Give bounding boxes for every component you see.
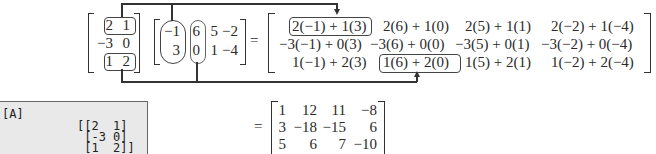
arrow-up-icon bbox=[414, 71, 420, 77]
result-2-2: −18 bbox=[287, 119, 317, 136]
connector-bottom-horizontal bbox=[121, 81, 417, 83]
connector-col2-vertical bbox=[196, 62, 198, 82]
expanded-3-1: 1(−1) + 2(3) bbox=[292, 54, 366, 71]
expanded-1-1: 2(−1) + 1(3) bbox=[292, 18, 366, 35]
connector-row1-vertical bbox=[121, 3, 123, 17]
result-2-3: −15 bbox=[316, 119, 346, 136]
expanded-right-bracket bbox=[644, 13, 651, 73]
result-2-1: 3 bbox=[266, 119, 286, 136]
b-1-4: −2 bbox=[210, 23, 238, 40]
result-1-2: 12 bbox=[287, 102, 317, 119]
matrix-b-right-bracket bbox=[240, 19, 246, 65]
result-3-2: 6 bbox=[287, 136, 317, 153]
expanded-2-3: −3(5) + 0(1) bbox=[455, 36, 529, 53]
expanded-3-4: 1(−2) + 2(−4) bbox=[551, 54, 634, 71]
b-1-1: −1 bbox=[156, 23, 180, 40]
a-3-2: 2 bbox=[104, 53, 130, 70]
calculator-screen: [A] [[2 1] [-3 0] [1 2]] bbox=[0, 101, 148, 154]
expanded-left-bracket bbox=[268, 13, 275, 73]
result-2-4: 6 bbox=[345, 119, 377, 136]
arrow-down-icon bbox=[334, 9, 340, 15]
expanded-3-3: 1(5) + 2(1) bbox=[465, 54, 531, 71]
b-2-4: −4 bbox=[210, 42, 238, 59]
equals-sign-bottom: = bbox=[254, 118, 262, 135]
b-2-1: 3 bbox=[156, 42, 180, 59]
expanded-2-2: −3(6) + 0(0) bbox=[370, 36, 444, 53]
result-right-bracket bbox=[378, 101, 385, 154]
result-3-4: −10 bbox=[345, 136, 377, 153]
expanded-1-2: 2(6) + 1(0) bbox=[383, 18, 449, 35]
result-1-1: 1 bbox=[266, 102, 286, 119]
expanded-2-4: −3(−2) + 0(−4) bbox=[541, 36, 632, 53]
expanded-1-4: 2(−2) + 1(−4) bbox=[551, 18, 634, 35]
result-1-3: 11 bbox=[316, 102, 346, 119]
calculator-matrix-label: [A] bbox=[2, 108, 24, 120]
result-1-4: −8 bbox=[345, 102, 377, 119]
expanded-2-1: −3(−1) + 0(3) bbox=[279, 36, 362, 53]
expanded-1-3: 2(5) + 1(1) bbox=[465, 18, 531, 35]
connector-top-horizontal bbox=[121, 3, 337, 5]
calculator-line-3: [1 2]] bbox=[77, 142, 135, 154]
connector-col1-vertical bbox=[171, 3, 173, 21]
equals-sign-top: = bbox=[250, 32, 258, 49]
expanded-3-2: 1(6) + 2(0) bbox=[383, 54, 449, 71]
result-3-3: 7 bbox=[316, 136, 346, 153]
result-3-1: 5 bbox=[266, 136, 286, 153]
a-2-2: 0 bbox=[104, 35, 130, 52]
a-1-2: 1 bbox=[104, 17, 130, 34]
